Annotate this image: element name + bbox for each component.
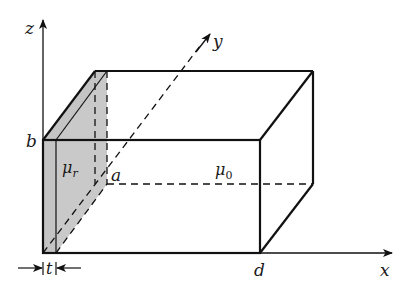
y-axis-label: y: [212, 31, 223, 51]
diagram-canvas: z y x b a d t μr μ0: [0, 0, 414, 293]
z-axis-label: z: [24, 18, 35, 38]
mu-0-label: μ0: [215, 160, 232, 182]
box-diagram: z y x b a d t μr μ0: [0, 0, 414, 293]
y-axis-arrow: [196, 34, 210, 52]
depth-label-a: a: [111, 165, 121, 185]
length-label-d: d: [254, 260, 265, 280]
thickness-label-t: t: [46, 259, 53, 278]
hidden-edges: [56, 71, 313, 253]
x-axis-label: x: [380, 260, 390, 280]
height-label-b: b: [26, 131, 37, 151]
top-right-edge: [260, 71, 313, 140]
bottom-right-edge: [260, 184, 313, 253]
